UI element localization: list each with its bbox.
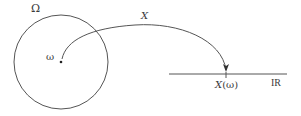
mapping-arrow xyxy=(62,25,226,70)
sample-point-label: ω xyxy=(46,52,54,62)
arrowhead-icon xyxy=(223,64,229,72)
sample-point-dot xyxy=(60,61,63,64)
sample-space-label: Ω xyxy=(31,3,40,14)
image-point-label: X(ω) xyxy=(215,80,238,90)
mapping-label: X xyxy=(141,11,148,21)
real-line-label: IR xyxy=(271,78,281,88)
image-point-arg: (ω) xyxy=(222,79,238,90)
random-variable-diagram: Ω ω X X(ω) IR xyxy=(0,0,301,116)
